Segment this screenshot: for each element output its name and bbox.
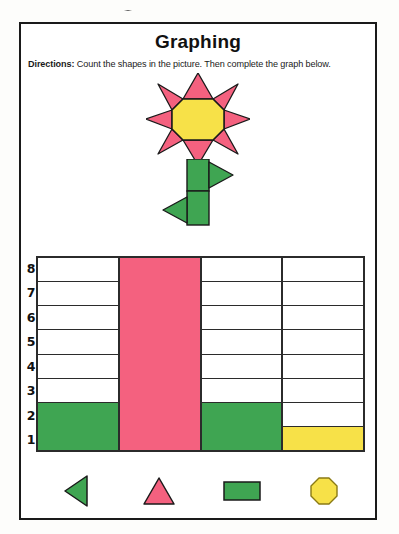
- graph-column-yellow-octagon[interactable]: [283, 258, 363, 450]
- rectangle-icon: [223, 481, 261, 501]
- directions-text: Count the shapes in the picture. Then co…: [74, 59, 330, 69]
- flower-center-octagon: [172, 99, 224, 140]
- triangle-left-icon: [64, 475, 90, 507]
- petal-left: [146, 110, 172, 129]
- graph-cell-pink-triangle-2[interactable]: [120, 403, 200, 427]
- graph-cell-green-rectangle-5[interactable]: [202, 330, 282, 354]
- flower-stem-group: [153, 159, 243, 231]
- graph-cell-yellow-octagon-2[interactable]: [283, 403, 363, 427]
- legend-cell-green-triangle: [36, 468, 118, 514]
- stem-rectangle-lower: [187, 191, 209, 225]
- graph-cell-green-triangle-1[interactable]: [38, 427, 118, 450]
- graph-cell-yellow-octagon-1[interactable]: [283, 427, 363, 450]
- graph-cell-yellow-octagon-4[interactable]: [283, 355, 363, 379]
- graph-cell-green-rectangle-4[interactable]: [202, 355, 282, 379]
- leaf-triangle-right: [209, 162, 233, 188]
- graph-cell-green-triangle-3[interactable]: [38, 379, 118, 403]
- graph-cell-green-triangle-6[interactable]: [38, 306, 118, 330]
- graph-cell-green-rectangle-6[interactable]: [202, 306, 282, 330]
- octagon-icon: [310, 477, 338, 505]
- graph-cell-green-rectangle-1[interactable]: [202, 427, 282, 450]
- graph-cell-green-rectangle-7[interactable]: [202, 282, 282, 306]
- graph-cell-yellow-octagon-5[interactable]: [283, 330, 363, 354]
- legend-cell-pink-triangle: [118, 468, 200, 514]
- petal-top: [183, 73, 213, 99]
- leaf-triangle-left: [163, 197, 187, 223]
- graph-cell-pink-triangle-1[interactable]: [120, 427, 200, 450]
- graph-cell-green-triangle-5[interactable]: [38, 330, 118, 354]
- graph-cell-yellow-octagon-3[interactable]: [283, 379, 363, 403]
- flower-picture: [21, 69, 375, 229]
- graph-cell-pink-triangle-3[interactable]: [120, 379, 200, 403]
- graph-cell-pink-triangle-4[interactable]: [120, 355, 200, 379]
- graph-cell-yellow-octagon-7[interactable]: [283, 282, 363, 306]
- triangle-up-icon: [143, 477, 175, 505]
- graph-column-green-triangle[interactable]: [38, 258, 120, 450]
- graph-cell-pink-triangle-7[interactable]: [120, 282, 200, 306]
- graph-cell-green-rectangle-3[interactable]: [202, 379, 282, 403]
- graph-column-green-rectangle[interactable]: [202, 258, 284, 450]
- graph-cell-green-triangle-8[interactable]: [38, 258, 118, 282]
- graph-grid: [36, 256, 365, 452]
- graph-cell-pink-triangle-6[interactable]: [120, 306, 200, 330]
- graph-cell-green-rectangle-8[interactable]: [202, 258, 282, 282]
- legend-cell-yellow-octagon: [283, 468, 365, 514]
- flower-head: [146, 73, 250, 165]
- graph-cell-pink-triangle-8[interactable]: [120, 258, 200, 282]
- petal-right: [224, 110, 250, 129]
- scan-artifact-mask: [110, 0, 144, 10]
- graph-cell-green-rectangle-2[interactable]: [202, 403, 282, 427]
- legend-cell-green-rectangle: [201, 468, 283, 514]
- graph-cell-green-triangle-2[interactable]: [38, 403, 118, 427]
- worksheet-page: Graphing Directions: Count the shapes in…: [19, 22, 377, 520]
- graph-cell-green-triangle-7[interactable]: [38, 282, 118, 306]
- shape-legend: [36, 468, 365, 514]
- directions-label: Directions:: [28, 59, 74, 69]
- directions-line: Directions: Count the shapes in the pict…: [28, 59, 368, 69]
- graph-cell-yellow-octagon-8[interactable]: [283, 258, 363, 282]
- graph-cell-yellow-octagon-6[interactable]: [283, 306, 363, 330]
- bar-graph: 8 7 6 5 4 3 2 1: [21, 252, 375, 462]
- stem-rectangle-upper: [187, 159, 209, 191]
- page-title: Graphing: [21, 31, 375, 53]
- graph-cell-pink-triangle-5[interactable]: [120, 330, 200, 354]
- graph-cell-green-triangle-4[interactable]: [38, 355, 118, 379]
- graph-column-pink-triangle[interactable]: [120, 258, 202, 450]
